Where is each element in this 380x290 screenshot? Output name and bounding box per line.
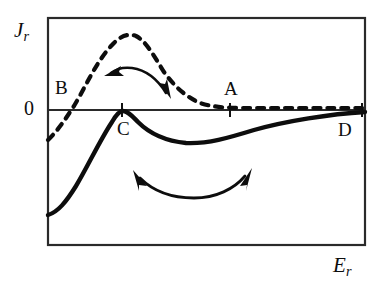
figure-root: Jr Er 0 B C A D xyxy=(0,0,380,290)
y-axis-label: Jr xyxy=(14,20,29,41)
point-label-d: D xyxy=(338,120,352,139)
zero-axis-label: 0 xyxy=(24,98,34,118)
point-label-c: C xyxy=(117,119,130,138)
x-axis-label-subscript: r xyxy=(346,263,352,279)
lower-arrow-head-left xyxy=(133,170,147,191)
dashed-branch-curve xyxy=(48,35,362,140)
lower-arrow-shaft xyxy=(140,176,245,198)
point-label-a: A xyxy=(224,79,238,98)
plot-frame xyxy=(48,18,365,245)
x-axis-label-main: E xyxy=(333,253,346,277)
plot-canvas xyxy=(0,0,380,290)
y-axis-label-main: J xyxy=(14,18,23,42)
solid-branch-curve xyxy=(48,111,365,215)
y-axis-label-subscript: r xyxy=(24,28,30,44)
point-label-b: B xyxy=(55,78,68,97)
lower-arrow xyxy=(133,168,252,198)
upper-arrow-shaft xyxy=(111,68,166,93)
x-axis-label: Er xyxy=(333,255,351,276)
